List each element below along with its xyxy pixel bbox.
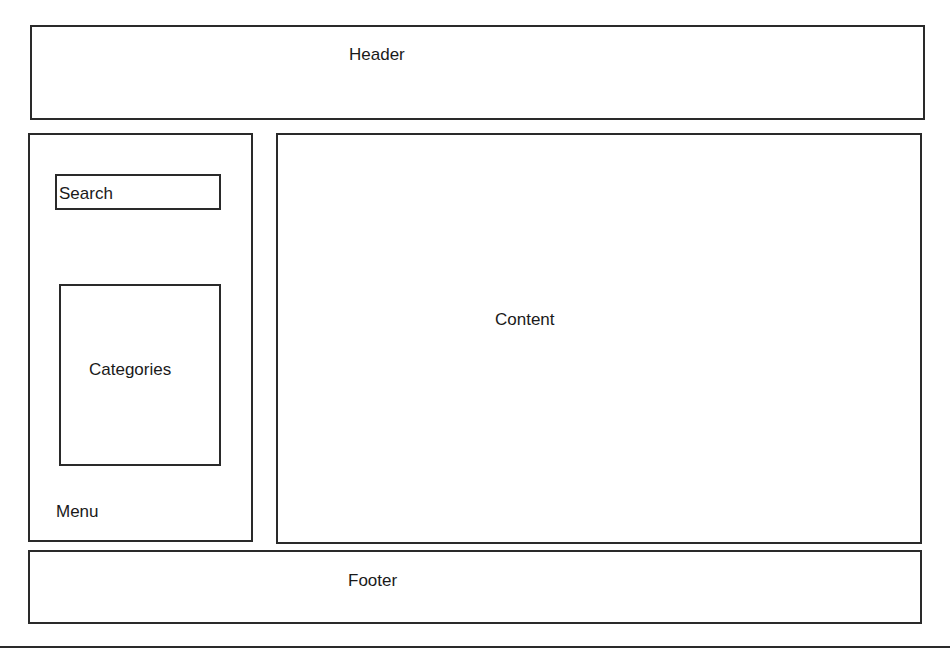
content-label: Content [495, 310, 555, 330]
bottom-divider [0, 646, 950, 648]
categories-label: Categories [89, 360, 171, 380]
categories-box: Categories [59, 284, 221, 466]
menu-label: Menu [56, 502, 99, 522]
content-region: Content [276, 133, 922, 544]
footer-label: Footer [348, 571, 397, 591]
footer-region: Footer [28, 550, 922, 624]
header-region: Header [30, 25, 925, 120]
header-label: Header [349, 45, 405, 65]
search-box: Search [55, 174, 221, 210]
search-label: Search [59, 184, 113, 204]
